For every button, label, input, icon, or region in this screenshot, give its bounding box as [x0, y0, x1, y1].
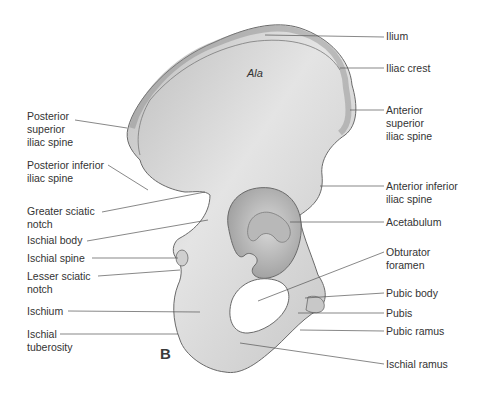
label-posterior-inferior-iliac-spine: Posterior inferior iliac spine — [27, 159, 104, 185]
label-ischial-tuberosity: Ischial tuberosity — [27, 328, 73, 354]
label-anterior-inferior-iliac-spine: Anterior inferior iliac spine — [386, 180, 458, 206]
label-ischial-spine: Ischial spine — [27, 252, 85, 265]
label-obturator-foramen: Obturator foramen — [386, 246, 430, 272]
label-lesser-sciatic-notch: Lesser sciatic notch — [27, 270, 91, 296]
label-ischial-body: Ischial body — [27, 234, 82, 247]
label-pubic-body: Pubic body — [386, 287, 438, 300]
ala-label: Ala — [247, 67, 263, 79]
label-ischium: Ischium — [27, 305, 63, 318]
label-ischial-ramus: Ischial ramus — [386, 358, 448, 371]
label-acetabulum: Acetabulum — [386, 216, 441, 229]
label-anterior-superior-iliac-spine: Anterior superior iliac spine — [386, 104, 432, 143]
label-ilium: Ilium — [386, 30, 408, 43]
label-greater-sciatic-notch: Greater sciatic notch — [27, 205, 95, 231]
label-pubis: Pubis — [386, 307, 412, 320]
hip-bone-diagram: Ala B Posterior superior iliac spine Pos… — [0, 0, 496, 396]
label-posterior-superior-iliac-spine: Posterior superior iliac spine — [27, 110, 73, 149]
label-pubic-ramus: Pubic ramus — [386, 325, 444, 338]
pubic-body — [306, 296, 324, 313]
label-iliac-crest: Iliac crest — [386, 62, 430, 75]
panel-letter: B — [160, 345, 171, 362]
